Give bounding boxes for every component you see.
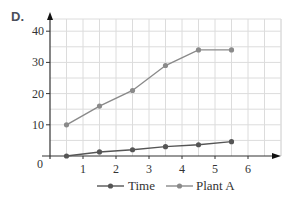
data-point <box>97 103 102 108</box>
x-tick-label: 6 <box>245 162 251 176</box>
y-tick-label: 20 <box>32 87 44 101</box>
x-tick-label: 5 <box>212 162 218 176</box>
data-point <box>64 153 69 158</box>
origin-label: 0 <box>37 157 43 171</box>
data-point <box>163 144 168 149</box>
legend-marker-icon <box>108 183 113 188</box>
x-tick-label: 1 <box>80 162 86 176</box>
data-point <box>196 47 201 52</box>
y-tick-label: 40 <box>32 24 44 38</box>
data-point <box>97 149 102 154</box>
data-point <box>130 147 135 152</box>
data-point <box>196 142 201 147</box>
x-tick-label: 2 <box>113 162 119 176</box>
data-point <box>163 63 168 68</box>
y-tick-label: 30 <box>32 55 44 69</box>
y-axis-arrow-icon <box>47 12 53 20</box>
legend-marker-icon <box>177 183 182 188</box>
data-point <box>64 122 69 127</box>
line-chart: 123456102030400TimePlant A <box>0 0 298 201</box>
data-point <box>130 88 135 93</box>
x-tick-label: 4 <box>179 162 185 176</box>
data-point <box>229 139 234 144</box>
x-axis-arrow-icon <box>272 153 281 159</box>
legend-label: Time <box>128 178 155 193</box>
data-point <box>229 47 234 52</box>
legend-label: Plant A <box>196 178 235 193</box>
x-tick-label: 3 <box>146 162 152 176</box>
y-tick-label: 10 <box>32 118 44 132</box>
